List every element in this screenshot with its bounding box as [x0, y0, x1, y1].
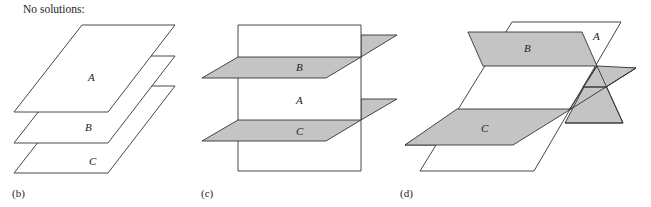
- plane-label-c: C: [296, 125, 304, 137]
- plane-label-c: C: [481, 122, 489, 134]
- plane-label-c: C: [89, 155, 97, 167]
- caption-c: (c): [201, 187, 213, 199]
- plane-label-b: B: [524, 42, 531, 54]
- panel-b: CBA: [14, 25, 175, 173]
- plane-label-b: B: [296, 61, 303, 73]
- plane-segment: [361, 35, 397, 57]
- plane-label-a: A: [87, 71, 95, 83]
- plane-label-a: A: [592, 30, 600, 42]
- panel-c: ABC: [202, 25, 397, 171]
- plane-b: [468, 32, 597, 66]
- plane-segment: [361, 99, 397, 120]
- planes-figure: CBA ABC ABC: [0, 0, 651, 207]
- plane-label-a: A: [295, 94, 303, 106]
- panel-d: ABC: [405, 22, 636, 171]
- caption-b: (b): [12, 187, 25, 199]
- plane-label-b: B: [85, 121, 92, 133]
- caption-d: (d): [400, 187, 413, 199]
